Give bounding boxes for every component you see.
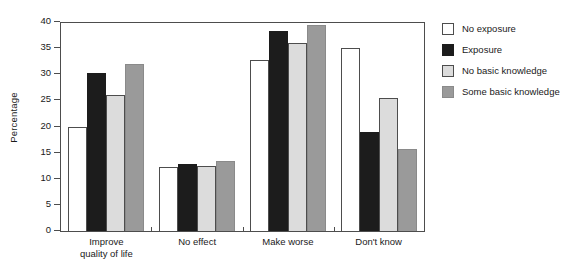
legend-label: Exposure bbox=[462, 44, 502, 55]
y-axis-tick-label: 40 bbox=[40, 15, 51, 26]
legend-label: No exposure bbox=[462, 23, 516, 34]
bar[interactable] bbox=[68, 127, 87, 231]
y-axis-tick: 20 bbox=[54, 126, 60, 127]
bar[interactable] bbox=[307, 25, 326, 231]
y-axis-tick: 40 bbox=[54, 21, 60, 22]
y-axis-tick-label: 35 bbox=[40, 41, 51, 52]
bar[interactable] bbox=[398, 149, 417, 231]
x-axis-label: No effect bbox=[152, 236, 243, 260]
bar[interactable] bbox=[216, 161, 235, 231]
bar[interactable] bbox=[360, 132, 379, 231]
chart-legend: No exposureExposureNo basic knowledgeSom… bbox=[442, 18, 577, 102]
bar[interactable] bbox=[106, 95, 125, 231]
bar[interactable] bbox=[178, 164, 197, 231]
bar[interactable] bbox=[159, 167, 178, 231]
y-axis-tick: 0 bbox=[54, 230, 60, 231]
y-axis-tick: 30 bbox=[54, 73, 60, 74]
bar[interactable] bbox=[269, 31, 288, 231]
x-axis-labels: Improve quality of lifeNo effectMake wor… bbox=[61, 236, 424, 260]
legend-label: No basic knowledge bbox=[462, 65, 547, 76]
legend-label: Some basic knowledge bbox=[462, 86, 560, 97]
bar-group bbox=[152, 22, 243, 231]
legend-swatch bbox=[442, 65, 454, 77]
bar[interactable] bbox=[288, 43, 307, 231]
y-axis-tick-label: 5 bbox=[46, 198, 51, 209]
y-axis-title-text: Percentage bbox=[8, 92, 19, 143]
x-axis-label: Improve quality of life bbox=[61, 236, 152, 260]
bar-groups bbox=[61, 22, 424, 231]
bar[interactable] bbox=[379, 98, 398, 231]
axis-frame-right bbox=[424, 22, 425, 232]
legend-item[interactable]: No exposure bbox=[442, 18, 577, 39]
legend-swatch bbox=[442, 86, 454, 98]
x-axis-label: Make worse bbox=[243, 236, 334, 260]
y-axis-tick: 15 bbox=[54, 152, 60, 153]
bar[interactable] bbox=[341, 48, 360, 231]
bar-group bbox=[61, 22, 152, 231]
y-axis-tick: 25 bbox=[54, 99, 60, 100]
y-axis-tick-label: 10 bbox=[40, 172, 51, 183]
bar-group bbox=[333, 22, 424, 231]
bar[interactable] bbox=[87, 73, 106, 231]
bar-group bbox=[243, 22, 334, 231]
y-axis-tick-label: 15 bbox=[40, 146, 51, 157]
legend-item[interactable]: Some basic knowledge bbox=[442, 81, 577, 102]
legend-swatch bbox=[442, 23, 454, 35]
y-axis-tick-label: 0 bbox=[46, 224, 51, 235]
bar[interactable] bbox=[125, 64, 144, 231]
legend-item[interactable]: Exposure bbox=[442, 39, 577, 60]
y-axis-tick: 5 bbox=[54, 204, 60, 205]
bar[interactable] bbox=[250, 60, 269, 231]
y-axis-tick: 10 bbox=[54, 178, 60, 179]
y-axis-title: Percentage bbox=[2, 0, 24, 234]
y-axis-tick-label: 30 bbox=[40, 67, 51, 78]
y-axis-tick-label: 20 bbox=[40, 120, 51, 131]
legend-item[interactable]: No basic knowledge bbox=[442, 60, 577, 81]
y-axis-tick: 35 bbox=[54, 47, 60, 48]
x-axis-line bbox=[60, 231, 425, 232]
legend-swatch bbox=[442, 44, 454, 56]
bar-chart-figure: Percentage 0510152025303540 Improve qual… bbox=[0, 0, 579, 278]
x-axis-label: Don't know bbox=[333, 236, 424, 260]
plot-area: 0510152025303540 bbox=[60, 22, 425, 232]
bar[interactable] bbox=[197, 166, 216, 231]
y-axis-tick-label: 25 bbox=[40, 93, 51, 104]
